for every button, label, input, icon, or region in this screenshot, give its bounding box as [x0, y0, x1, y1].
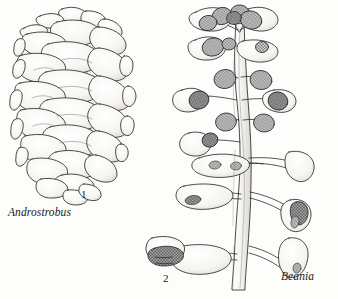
figure-number-1: 1 — [81, 188, 87, 200]
androstrobus-cone — [10, 7, 136, 205]
figure-number-2: 2 — [163, 272, 169, 284]
caption-beania: Beania — [281, 270, 314, 282]
illustration-plate — [0, 0, 338, 299]
caption-androstrobus: Androstrobus — [8, 206, 71, 218]
